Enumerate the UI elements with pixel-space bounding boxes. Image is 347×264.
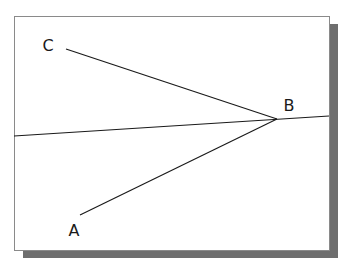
point-label-B: B xyxy=(284,96,295,115)
diagram-canvas: A B C xyxy=(0,0,347,264)
point-label-C: C xyxy=(42,36,53,55)
point-label-A: A xyxy=(69,221,80,240)
